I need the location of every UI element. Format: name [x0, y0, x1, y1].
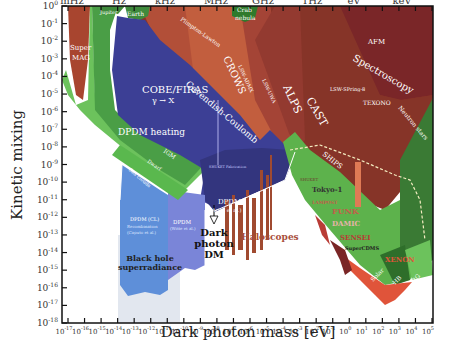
label-dpdm-arias-2: (Arias et al.)	[210, 207, 241, 213]
y-tick-label: 10-9	[41, 158, 58, 170]
chart-svg: 10010-110-210-310-410-510-610-710-810-91…	[0, 0, 452, 342]
top-axis-label: MHz	[204, 0, 228, 6]
label-tokyo-1: Tokyo-1	[312, 185, 343, 194]
x-tick-label: 10-17	[56, 325, 73, 336]
top-axis-label: Hz	[112, 0, 126, 6]
label-jupiter: Jupiter	[99, 9, 118, 16]
y-tick-label: 10-12	[37, 210, 58, 222]
y-tick-label: 10-8	[41, 140, 58, 152]
x-tick-label: 102	[372, 325, 384, 336]
x-tick-label: 104	[405, 325, 417, 336]
label-dpdm-witte-1: DPDM	[173, 219, 192, 225]
region-lampost-spike	[355, 162, 361, 207]
top-axis-label: kHz	[155, 0, 175, 6]
label-black-hole-2: superradiance	[118, 262, 182, 272]
label-damic: DAMIC	[332, 219, 361, 228]
top-axis-label: keV	[392, 0, 412, 6]
label-afm: AFM	[367, 38, 385, 46]
label-shuket-fabrication: SHUKET Fabrication	[209, 165, 247, 169]
label-dark-photon-dm-1: Dark	[200, 227, 228, 238]
label-dpdm-recombination-2: Recombination	[127, 224, 158, 229]
x-tick-label: 100	[339, 325, 351, 336]
label-dark-photon-dm-3: DM	[204, 249, 224, 260]
label-dpdm-witte-2: (Witte et al.)	[170, 226, 196, 231]
label-dpdm-heating: DPDM heating	[118, 127, 185, 137]
x-tick-label: 105	[422, 325, 434, 336]
label-dark-photon-dm-2: photon	[194, 238, 234, 249]
label-shuket: SHUKET	[300, 177, 319, 182]
label-sensei: SENSEI	[340, 233, 370, 242]
y-tick-label: 100	[43, 0, 58, 11]
label-dpdm-recombination-3: (Caputo et al.)	[127, 230, 157, 235]
y-tick-label: 10-6	[41, 105, 58, 117]
label-dpdm-recombination-1: DPDM (CL)	[130, 216, 159, 222]
top-axis-label: THz	[302, 0, 323, 6]
label-crab-2: nebula	[235, 14, 256, 21]
x-tick-label: 10-12	[138, 325, 155, 336]
y-tick-label: 10-17	[37, 298, 58, 310]
y-tick-label: 10-2	[41, 34, 58, 46]
label-dpdm-arias-1: DPDM	[218, 198, 241, 206]
y-axis-title: Kinetic mixing	[8, 110, 26, 220]
x-axis-title: Dark photon mass [eV]	[161, 323, 336, 341]
label-lampost: LAMPOST	[312, 200, 338, 205]
label-funk: FUNK	[332, 206, 360, 216]
x-tick-label: 103	[389, 325, 401, 336]
y-tick-label: 10-15	[37, 263, 58, 275]
label-xenon: XENON	[385, 255, 415, 264]
label-supercdms: SuperCDMS	[345, 245, 379, 252]
x-tick-label: 10-15	[89, 325, 106, 336]
label-supermag-2: MAG	[72, 54, 90, 62]
y-tick-label: 10-18	[37, 316, 58, 328]
y-tick-label: 10-10	[37, 175, 58, 187]
label-texono: TEXONO	[363, 99, 391, 106]
y-tick-labels: 10010-110-210-310-410-510-610-710-810-91…	[37, 0, 58, 328]
label-earth: Earth	[127, 10, 144, 17]
label-supermag-1: Super	[70, 44, 92, 52]
y-tick-label: 10-11	[37, 193, 58, 205]
y-tick-label: 10-16	[37, 281, 58, 293]
x-tick-label: 10-14	[105, 325, 122, 336]
y-tick-label: 10-13	[37, 228, 58, 240]
y-tick-label: 10-4	[41, 69, 58, 81]
y-tick-label: 10-7	[41, 122, 58, 134]
top-axis-label: mHz	[60, 0, 83, 6]
y-tick-label: 10-1	[41, 17, 58, 29]
y-tick-label: 10-3	[41, 52, 58, 64]
label-cobe-gamma-x: γ → X	[152, 96, 175, 105]
top-axis-label: GHz	[252, 0, 274, 6]
label-crab-1: Crab	[237, 6, 252, 13]
x-tick-label: 101	[356, 325, 368, 336]
top-axis-label: eV	[347, 0, 361, 6]
y-tick-label: 10-5	[41, 87, 58, 99]
y-tick-label: 10-14	[37, 246, 58, 258]
dark-photon-limits-chart: 10010-110-210-310-410-510-610-710-810-91…	[0, 0, 452, 342]
x-tick-label: 10-13	[122, 325, 139, 336]
label-haloscopes: Haloscopes	[241, 232, 298, 242]
x-tick-label: 10-16	[72, 325, 89, 336]
label-lsw-spring8: LSW-SPring-8	[330, 86, 365, 93]
